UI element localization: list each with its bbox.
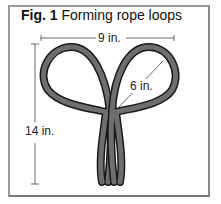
- loop-label: 6 in.: [130, 79, 153, 93]
- height-label: 14 in.: [25, 124, 54, 138]
- width-label: 9 in.: [98, 31, 121, 45]
- height-dimension-line: [31, 44, 39, 184]
- rope: [44, 47, 176, 182]
